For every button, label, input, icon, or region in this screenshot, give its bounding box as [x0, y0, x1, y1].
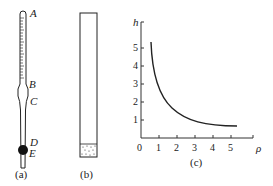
- hydrometer-diagram: [18, 11, 29, 168]
- bulb-weight: [18, 145, 28, 155]
- caption-b: (b): [80, 168, 93, 181]
- y-tick-5: 5: [133, 42, 138, 53]
- caption-c: (c): [190, 156, 203, 169]
- test-tube-diagram: [80, 13, 97, 157]
- sand-fill: [81, 145, 95, 155]
- y-tick-4: 4: [133, 60, 138, 71]
- caption-a: (a): [15, 168, 28, 181]
- h-rho-chart: [141, 22, 253, 138]
- x-tick-4: 4: [210, 142, 215, 153]
- x-tick-3: 3: [192, 142, 197, 153]
- label-a-top: A: [29, 7, 37, 19]
- label-b: B: [29, 78, 36, 90]
- x-tick-0: 0: [137, 142, 142, 153]
- y-axis-label: h: [133, 16, 139, 28]
- x-tick-2: 2: [174, 142, 179, 153]
- figure-canvas: A B C D E (a) (b) h ρ 5 4 3 2 1 0: [0, 0, 273, 186]
- y-tick-2: 2: [133, 96, 138, 107]
- h-rho-curve: [151, 42, 237, 126]
- y-tick-1: 1: [133, 114, 138, 125]
- x-tick-5: 5: [228, 142, 233, 153]
- y-tick-3: 3: [133, 78, 138, 89]
- label-c: C: [30, 95, 38, 107]
- x-axis-label: ρ: [255, 142, 261, 154]
- x-tick-1: 1: [156, 142, 161, 153]
- label-e: E: [28, 147, 36, 159]
